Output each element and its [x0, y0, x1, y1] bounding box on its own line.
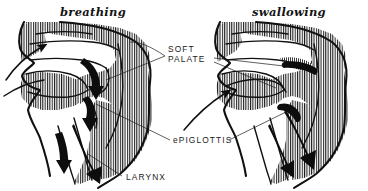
title-breathing: breathing — [60, 5, 126, 19]
breathing-airflow-arrows — [4, 48, 104, 184]
panel-breathing: breathing — [4, 5, 152, 188]
anatomy-diagram-svg: breathing — [0, 0, 368, 191]
panel-swallowing: swallowing — [184, 5, 348, 188]
label-soft-palate-line1: SOFT — [168, 44, 195, 54]
title-swallowing: swallowing — [252, 5, 326, 19]
label-epiglottis: ePIGLOTTIS — [173, 135, 232, 145]
label-larynx: LARYNX — [126, 172, 166, 182]
label-soft-palate-line2: PALATE — [168, 54, 205, 64]
anatomy-figure: breathing — [0, 0, 368, 191]
